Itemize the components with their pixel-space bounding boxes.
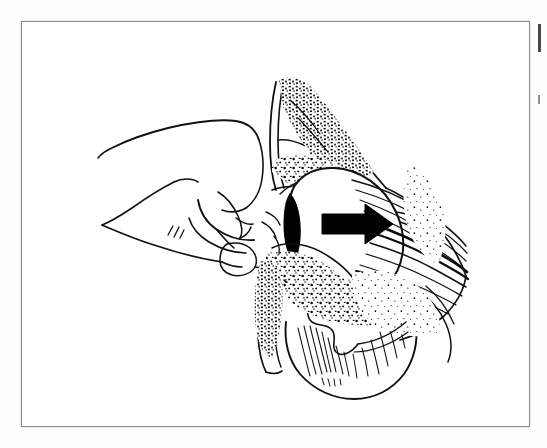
margin-note: Sliver of adjacent page text cropped at … <box>0 0 1 1</box>
finger-contact <box>262 212 280 254</box>
margin-text-cutoff <box>538 24 541 52</box>
examiner-hand <box>98 120 274 275</box>
figure-frame <box>21 21 530 427</box>
illustration-title: Hip joint cross-section with manual pres… <box>0 0 1 1</box>
figure-alt-text: Line drawing cross-section of a hip join… <box>0 0 1 1</box>
page-background: Line drawing cross-section of a hip join… <box>0 0 547 448</box>
arrow-meaning: Direction of applied force <box>0 0 1 1</box>
margin-text-cutoff-secondary <box>538 95 540 104</box>
anatomical-illustration <box>22 22 531 428</box>
